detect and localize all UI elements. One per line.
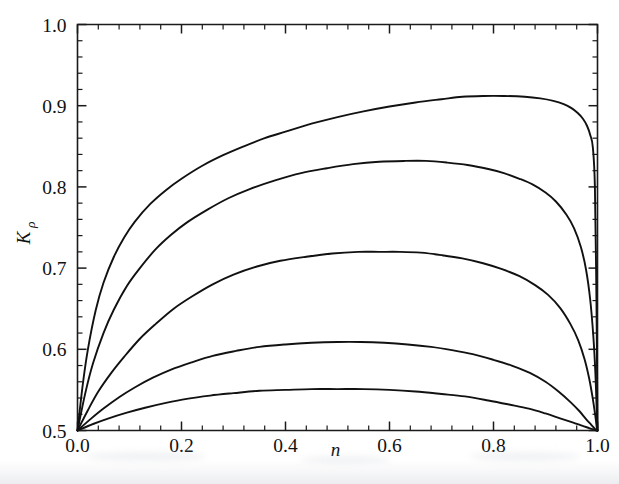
y-tick-label: 0.7 [42, 258, 67, 279]
x-tick-label: 0.2 [169, 435, 193, 456]
y-axis-tick-labels: 0.50.60.70.80.91.0 [42, 15, 67, 442]
curve-1 [78, 96, 598, 431]
y-axis-label: K [13, 230, 34, 245]
y-tick-label: 1.0 [42, 15, 66, 36]
x-axis-label: n [331, 439, 341, 460]
y-axis-label-subscript: ρ [23, 221, 38, 229]
y-axis-major-ticks [78, 25, 598, 431]
x-tick-label: 0.4 [273, 435, 298, 456]
figure-container: 0.00.20.40.60.81.0 0.50.60.70.80.91.0 n … [0, 0, 619, 484]
y-tick-label: 0.9 [42, 96, 66, 117]
x-tick-label: 0.0 [65, 435, 89, 456]
chart-canvas: 0.00.20.40.60.81.0 0.50.60.70.80.91.0 n … [0, 0, 619, 484]
y-tick-label: 0.8 [42, 177, 66, 198]
curve-5 [78, 389, 598, 431]
curve-4 [78, 342, 598, 431]
x-tick-label: 0.6 [377, 435, 402, 456]
x-tick-label: 1.0 [585, 435, 609, 456]
y-tick-label: 0.6 [42, 339, 67, 360]
plot-frame [78, 25, 598, 431]
x-tick-label: 0.8 [481, 435, 505, 456]
y-tick-label: 0.5 [42, 421, 66, 442]
x-axis-major-ticks [78, 25, 598, 431]
data-curves [78, 96, 598, 431]
y-axis-label-group: K ρ [13, 221, 38, 245]
